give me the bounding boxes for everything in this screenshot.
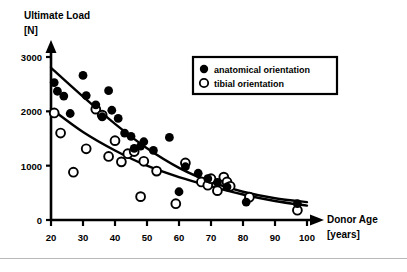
x-tick-group: 2030405060708090100 xyxy=(46,220,315,243)
data-point-anatomical xyxy=(98,112,107,121)
x-tick-label: 40 xyxy=(110,232,121,243)
data-point-tibial xyxy=(82,144,91,153)
y-axis-unit: [N] xyxy=(24,25,38,36)
x-tick-label: 50 xyxy=(142,232,153,243)
data-point-anatomical xyxy=(223,182,232,191)
x-axis-title: Donor Age xyxy=(327,214,378,225)
data-point-tibial xyxy=(69,168,78,177)
x-tick-label: 90 xyxy=(270,232,281,243)
page-divider xyxy=(0,258,407,259)
x-tick-label: 80 xyxy=(238,232,249,243)
data-point-anatomical xyxy=(165,133,174,142)
data-point-tibial xyxy=(56,129,65,138)
data-point-anatomical xyxy=(293,199,302,208)
data-point-tibial xyxy=(104,152,113,161)
data-point-anatomical xyxy=(203,174,212,183)
x-tick-label: 30 xyxy=(78,232,89,243)
data-point-tibial xyxy=(136,192,145,201)
legend-label-anatomical: anatomical orientation xyxy=(214,65,310,75)
y-tick-label: 1000 xyxy=(21,161,42,172)
scatter-chart: 0100020003000 2030405060708090100 Ultima… xyxy=(0,0,407,258)
x-axis-arrow-icon xyxy=(310,215,324,226)
data-point-anatomical xyxy=(149,146,158,155)
data-point-tibial xyxy=(213,186,222,195)
data-point-anatomical xyxy=(59,92,68,101)
x-axis-unit: [years] xyxy=(327,229,360,240)
data-point-anatomical xyxy=(82,91,91,100)
data-point-tibial xyxy=(139,157,148,166)
data-point-anatomical xyxy=(127,132,136,141)
data-point-anatomical xyxy=(114,114,123,123)
legend-label-tibial: tibial orientation xyxy=(214,79,284,89)
data-point-anatomical xyxy=(194,169,203,178)
data-point-anatomical xyxy=(50,78,59,87)
x-tick-label: 60 xyxy=(174,232,185,243)
legend-marker-open-circle-icon xyxy=(200,79,208,87)
data-point-anatomical xyxy=(242,198,251,207)
figure-panel: 0100020003000 2030405060708090100 Ultima… xyxy=(0,0,407,272)
data-point-tibial xyxy=(152,167,161,176)
data-point-anatomical xyxy=(181,162,190,171)
data-point-anatomical xyxy=(175,187,184,196)
y-tick-label: 3000 xyxy=(21,52,42,63)
x-tick-label: 70 xyxy=(206,232,217,243)
data-point-tibial xyxy=(171,199,180,208)
data-point-anatomical xyxy=(104,86,113,95)
y-tick-label: 0 xyxy=(37,215,42,226)
data-point-anatomical xyxy=(213,178,222,187)
data-point-anatomical xyxy=(91,100,100,109)
data-point-anatomical xyxy=(79,71,88,80)
data-point-tibial xyxy=(111,136,120,145)
y-axis-arrow-icon xyxy=(46,40,57,53)
data-point-anatomical xyxy=(66,109,75,118)
data-point-anatomical xyxy=(139,137,148,146)
data-point-anatomical xyxy=(107,106,116,115)
y-tick-group: 0100020003000 xyxy=(21,52,51,226)
x-tick-label: 20 xyxy=(46,232,57,243)
legend-marker-filled-circle-icon xyxy=(200,65,208,73)
y-axis-title: Ultimate Load xyxy=(24,10,90,21)
y-tick-label: 2000 xyxy=(21,106,42,117)
data-point-tibial xyxy=(117,157,126,166)
legend: anatomical orientation tibial orientatio… xyxy=(193,57,337,94)
data-point-tibial xyxy=(50,109,59,118)
x-tick-label: 100 xyxy=(299,232,315,243)
